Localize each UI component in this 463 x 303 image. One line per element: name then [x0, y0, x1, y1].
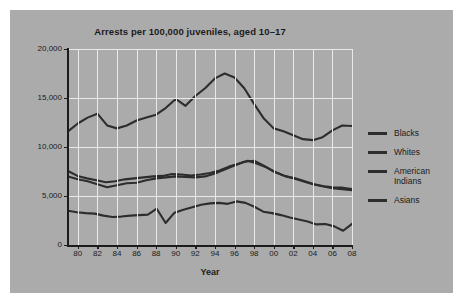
y-tick-label: 20,000 — [20, 44, 62, 53]
chart-figure: Arrests per 100,000 juveniles, aged 10–1… — [10, 10, 453, 293]
x-tick-label: 96 — [225, 249, 245, 258]
gridline-vertical — [137, 49, 138, 245]
x-tick-label: 90 — [166, 249, 186, 258]
legend-item-asians[interactable]: Asians — [368, 195, 453, 205]
x-tick-label: 08 — [342, 249, 362, 258]
gridline-vertical — [215, 49, 216, 245]
legend-label: Whites — [394, 147, 420, 157]
gridline-horizontal — [68, 147, 352, 148]
x-tick-label: 02 — [283, 249, 303, 258]
gridline-vertical — [117, 49, 118, 245]
legend-item-whites[interactable]: Whites — [368, 147, 453, 157]
legend-label: American Indians — [394, 166, 453, 186]
gridline-vertical — [176, 49, 177, 245]
x-axis-line — [67, 245, 352, 247]
gridline-vertical — [156, 49, 157, 245]
x-tick-label: 80 — [68, 249, 88, 258]
x-tick-label: 92 — [185, 249, 205, 258]
y-tick-mark — [64, 98, 68, 99]
x-tick-label: 94 — [205, 249, 225, 258]
x-tick-label: 00 — [264, 249, 284, 258]
legend-swatch-icon — [368, 132, 387, 135]
x-tick-label: 88 — [146, 249, 166, 258]
gridline-horizontal — [68, 196, 352, 197]
gridline-vertical — [313, 49, 314, 245]
chart-legend: BlacksWhitesAmerican IndiansAsians — [368, 128, 453, 214]
y-tick-label: 0 — [20, 240, 62, 249]
gridline-horizontal — [68, 98, 352, 99]
x-tick-label: 86 — [127, 249, 147, 258]
y-tick-label: 15,000 — [20, 93, 62, 102]
y-tick-mark — [64, 147, 68, 148]
legend-item-american-indians[interactable]: American Indians — [368, 166, 453, 186]
series-line-whites — [68, 161, 352, 190]
gridline-vertical — [254, 49, 255, 245]
y-tick-label: 5,000 — [20, 191, 62, 200]
x-axis-title: Year — [68, 267, 352, 277]
gridline-vertical — [78, 49, 79, 245]
y-tick-mark — [64, 196, 68, 197]
gridline-horizontal — [68, 49, 352, 50]
x-tick-label: 06 — [322, 249, 342, 258]
gridline-vertical — [352, 49, 353, 245]
x-tick-label: 98 — [244, 249, 264, 258]
legend-swatch-icon — [368, 199, 387, 202]
series-line-asians — [68, 201, 352, 230]
gridline-vertical — [97, 49, 98, 245]
y-tick-mark — [64, 245, 68, 246]
x-tick-label: 82 — [87, 249, 107, 258]
x-tick-label: 84 — [107, 249, 127, 258]
legend-label: Blacks — [394, 128, 419, 138]
x-tick-label: 04 — [303, 249, 323, 258]
gridline-vertical — [235, 49, 236, 245]
legend-item-blacks[interactable]: Blacks — [368, 128, 453, 138]
series-line-blacks — [68, 74, 352, 141]
plot-area: 05,00010,00015,00020,0008082848688909294… — [68, 49, 352, 245]
legend-swatch-icon — [368, 170, 387, 173]
gridline-vertical — [195, 49, 196, 245]
legend-label: Asians — [394, 195, 420, 205]
gridline-vertical — [274, 49, 275, 245]
gridline-vertical — [332, 49, 333, 245]
chart-title: Arrests per 100,000 juveniles, aged 10–1… — [10, 26, 370, 37]
y-tick-label: 10,000 — [20, 142, 62, 151]
legend-swatch-icon — [368, 151, 387, 154]
y-tick-mark — [64, 49, 68, 50]
gridline-vertical — [293, 49, 294, 245]
